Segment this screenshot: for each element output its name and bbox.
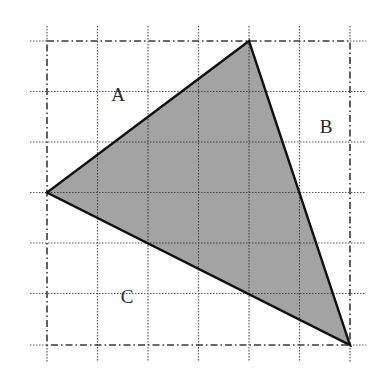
grid-triangle-diagram: A B C	[0, 0, 383, 382]
label-c: C	[121, 286, 134, 307]
label-b: B	[320, 116, 333, 137]
label-a: A	[111, 84, 125, 105]
